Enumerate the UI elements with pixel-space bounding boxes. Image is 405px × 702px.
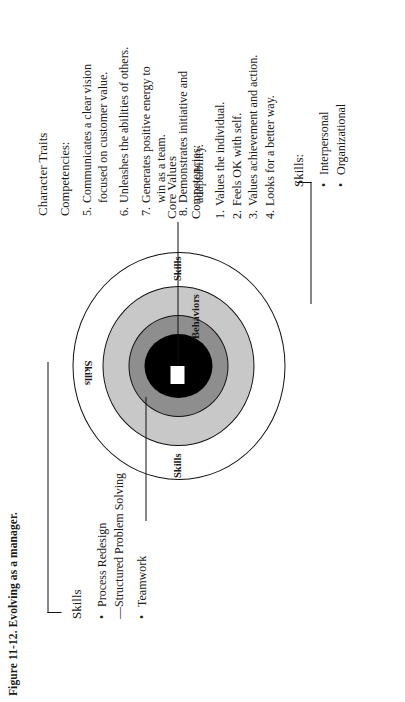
skills-right-title: Skills: xyxy=(290,12,306,187)
character-traits-item: 6.Unleashes the abilities of others. xyxy=(116,4,132,216)
character-traits-title: Character Traits xyxy=(34,4,50,216)
item-text: Teamwork xyxy=(134,556,148,607)
item-text: Values achievement and action. xyxy=(245,55,259,206)
skills-left-item: —Structured Problem Solving xyxy=(110,389,127,619)
item-line1: Communicates a clear vision xyxy=(79,64,93,203)
core-values-item: 1.Values the individual. xyxy=(211,4,228,219)
item-line2: focused on customer value. xyxy=(95,4,111,216)
figure-stage: Figure 11-12. Evolving as a manager. Ski… xyxy=(0,0,405,702)
core-values-item: 2.Feels OK with self. xyxy=(228,4,245,219)
bracket-skills-right-line xyxy=(310,182,311,304)
ring-label-behaviors: Behaviors xyxy=(189,294,200,339)
item-text: Structured Problem Solving xyxy=(111,473,125,607)
ring-label-skills-right: Skills xyxy=(171,256,182,281)
bracket-skills-left-tick xyxy=(47,612,61,613)
bullet-icon: • xyxy=(315,175,332,187)
item-text: Organizational xyxy=(333,104,347,175)
core-values-subtitle: Competencies: xyxy=(188,4,203,219)
item-text: Process Redesign xyxy=(94,523,108,607)
item-text: Values the individual. xyxy=(212,102,226,206)
item-line1: Generates positive energy to xyxy=(138,66,152,203)
skills-right-item: •Organizational xyxy=(332,12,349,187)
dash-icon: — xyxy=(110,607,127,619)
leader-line-core-values xyxy=(177,222,178,366)
item-number: 2. xyxy=(228,206,245,219)
character-traits-item: 5.Communicates a clear vision focused on… xyxy=(79,4,110,216)
item-text: Interpersonal xyxy=(316,112,330,175)
core-values-item: 4.Looks for a better way. xyxy=(261,4,278,219)
skills-right-item: •Interpersonal xyxy=(315,12,332,187)
item-number: 4. xyxy=(261,206,278,219)
item-text: Looks for a better way. xyxy=(262,95,276,206)
item-text: Feels OK with self. xyxy=(229,113,243,206)
item-number: 3. xyxy=(244,206,261,219)
item-number: 5. xyxy=(79,203,95,216)
skills-left-item: •Process Redesign xyxy=(93,389,110,619)
bracket-skills-left-line xyxy=(47,362,48,613)
core-values-title: Core Values xyxy=(163,4,179,219)
bullet-icon: • xyxy=(332,175,349,187)
item-number: 7. xyxy=(138,203,154,216)
skills-left-title: Skills xyxy=(68,389,84,619)
character-traits-subtitle: Competencies: xyxy=(57,4,72,216)
core-values-item: 3.Values achievement and action. xyxy=(244,4,261,219)
block-skills-right: Skills: •Interpersonal •Organizational xyxy=(290,12,348,187)
bullet-icon: • xyxy=(93,607,110,619)
item-line1: Unleashes the abilities of others. xyxy=(116,47,130,203)
skills-left-item: •Teamwork xyxy=(133,389,150,619)
ring-label-skills-left: Skills xyxy=(171,453,182,478)
item-number: 6. xyxy=(116,203,132,216)
ring-label-skills-top: Skills xyxy=(82,360,93,385)
item-number: 1. xyxy=(211,206,228,219)
block-core-values: Core Values Competencies: 1.Values the i… xyxy=(163,4,277,219)
bullet-icon: • xyxy=(133,607,150,619)
block-skills-left: Skills •Process Redesign —Structured Pro… xyxy=(68,389,150,619)
leader-line-core-values-white-segment xyxy=(170,366,184,384)
figure-caption: Figure 11-12. Evolving as a manager. xyxy=(6,512,18,696)
